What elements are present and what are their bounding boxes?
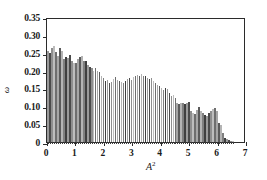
x-tick-minor-mark [128,142,129,144]
x-tick-minor-mark [217,142,218,144]
x-tick-label: 7 [243,148,248,158]
x-tick-minor-mark [183,142,184,144]
y-tick-label: 0.10 [24,102,40,112]
x-tick-minor-mark [142,142,143,144]
x-tick-minor-mark [201,142,202,144]
x-tick-minor-mark [205,142,206,144]
x-tick-minor-mark [96,142,97,144]
x-tick-minor-mark [170,142,171,144]
y-axis-tick-labels: 00.050.100.150.200.250.300.35 [0,0,44,180]
x-tick-minor-mark [233,142,234,144]
x-tick-minor-mark [160,142,161,144]
x-tick-label: 0 [44,148,49,158]
x-tick-minor-mark [90,142,91,144]
x-tick-minor-mark [175,142,176,144]
x-tick-minor-mark [209,142,210,144]
x-tick-minor-mark [229,142,230,144]
x-tick-minor-mark [68,142,69,144]
x-tick-minor-mark [64,142,65,144]
x-tick-minor-mark [120,142,121,144]
x-tick-minor-mark [197,142,198,144]
x-tick-minor-mark [134,142,135,144]
x-tick-minor-mark [189,142,190,144]
x-tick-minor-mark [177,142,178,144]
x-tick-minor-mark [166,142,167,144]
x-tick-minor-mark [136,142,137,144]
x-tick-minor-mark [138,142,139,144]
x-tick-minor-mark [215,142,216,144]
x-tick-minor-mark [58,142,59,144]
x-tick-minor-mark [130,142,131,144]
x-tick-minor-mark [74,142,75,144]
y-tick-label: 0.15 [24,84,40,94]
x-tick-minor-mark [60,142,61,144]
x-tick-minor-mark [199,142,200,144]
x-tick-minor-mark [144,142,145,144]
x-tick-minor-mark [162,142,163,144]
x-tick-minor-mark [213,142,214,144]
x-tick-minor-mark [80,142,81,144]
x-tick-minor-mark [100,142,101,144]
x-tick-minor-mark [191,142,192,144]
x-tick-minor-mark [98,142,99,144]
x-tick-minor-mark [132,142,133,144]
x-tick-minor-mark [116,142,117,144]
x-tick-minor-mark [211,142,212,144]
x-tick-minor-mark [106,142,107,144]
chart-figure: ω 00.050.100.150.200.250.300.35 A2 01234… [0,0,267,180]
x-tick-minor-mark [179,142,180,144]
x-tick-minor-mark [207,142,208,144]
y-tick-label: 0.35 [24,13,40,23]
y-tick-mark [43,19,47,20]
x-tick-minor-mark [221,142,222,144]
x-tick-minor-mark [140,142,141,144]
x-tick-label: 3 [129,148,134,158]
x-tick-minor-mark [114,142,115,144]
x-tick-minor-mark [56,142,57,144]
x-tick-minor-mark [152,142,153,144]
x-tick-minor-mark [112,142,113,144]
x-tick-label: 5 [186,148,191,158]
x-tick-minor-mark [231,142,232,144]
x-tick-minor-mark [50,142,51,144]
x-tick-minor-mark [195,142,196,144]
x-tick-minor-mark [86,142,87,144]
x-tick-minor-mark [78,142,79,144]
x-tick-minor-mark [172,142,173,144]
x-tick-minor-mark [203,142,204,144]
y-tick-mark [43,73,47,74]
y-tick-mark [43,37,47,38]
x-tick-label: 6 [214,148,219,158]
y-tick-mark [43,108,47,109]
x-tick-minor-mark [54,142,55,144]
y-tick-label: 0 [35,138,40,148]
plot-area [46,18,245,143]
x-tick-minor-mark [122,142,123,144]
x-tick-minor-mark [154,142,155,144]
x-axis-label: A2 [146,160,156,172]
x-tick-label: 1 [72,148,77,158]
x-tick-minor-mark [146,142,147,144]
y-tick-label: 0.20 [24,67,40,77]
x-tick-minor-mark [102,142,103,144]
x-tick-minor-mark [92,142,93,144]
x-tick-minor-mark [168,142,169,144]
y-tick-label: 0.30 [24,31,40,41]
y-tick-mark [43,126,47,127]
x-tick-label: 2 [100,148,105,158]
x-tick-minor-mark [223,142,224,144]
x-tick-minor-mark [181,142,182,144]
x-tick-minor-mark [110,142,111,144]
x-tick-minor-mark [82,142,83,144]
x-tick-minor-mark [150,142,151,144]
x-tick-minor-mark [156,142,157,144]
histogram-bars [47,19,244,142]
x-tick-minor-mark [124,142,125,144]
x-tick-minor-mark [88,142,89,144]
x-tick-minor-mark [48,142,49,144]
x-tick-minor-mark [185,142,186,144]
x-tick-minor-mark [227,142,228,144]
x-tick-minor-mark [118,142,119,144]
x-tick-minor-mark [52,142,53,144]
x-tick-minor-mark [158,142,159,144]
